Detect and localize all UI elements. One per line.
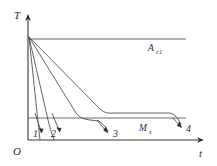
cooling-curve-2 [29, 37, 54, 140]
curve-label-4: 4 [186, 123, 191, 134]
ms-label-sub: s [149, 128, 152, 135]
leader-arrowhead-2 [56, 128, 61, 133]
cooling-curve-figure: T t O A c1 M s 1 2 3 4 [0, 0, 217, 166]
x-axis-label: t [199, 147, 203, 159]
ac1-label-sub: c1 [156, 48, 162, 55]
ms-label: M s [138, 123, 152, 135]
ms-label-main: M [138, 123, 148, 133]
curve-label-1: 1 [33, 128, 38, 139]
curve-label-2: 2 [51, 128, 56, 139]
leader-arrowhead-4 [177, 122, 182, 128]
diagram-canvas: T t O A c1 M s 1 2 3 4 [0, 0, 217, 166]
ac1-label: A c1 [147, 43, 162, 55]
ac1-label-main: A [147, 43, 154, 53]
curve-label-3: 3 [112, 128, 118, 139]
origin-label: O [13, 145, 21, 157]
cooling-curve-3 [29, 37, 108, 131]
y-axis-label: T [14, 9, 21, 21]
